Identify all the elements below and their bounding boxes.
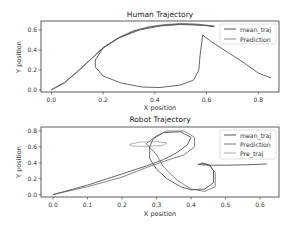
chart-title: Robot Trajectory	[129, 115, 191, 124]
y-tick-label: 0.6	[27, 26, 37, 33]
y-ticks: 0.00.20.40.6	[27, 26, 41, 93]
x-tick-label: 0.2	[117, 201, 127, 208]
x-tick-label: 0.3	[152, 201, 162, 208]
x-axis-label: X position	[144, 104, 176, 112]
legend: mean_traj Prediction Pre_traj	[220, 130, 276, 159]
series-prediction	[53, 131, 215, 195]
x-tick-label: 0.1	[83, 201, 93, 208]
x-ticks: 0.00.20.40.60.8	[47, 92, 264, 103]
legend-label-pre-traj: Pre_traj	[240, 150, 264, 158]
y-axis-label: Y position	[15, 41, 23, 74]
y-ticks: 0.00.20.40.60.8	[27, 127, 41, 198]
x-tick-label: 0.5	[221, 201, 231, 208]
x-axis-label: X position	[144, 210, 176, 218]
y-tick-label: 0.4	[27, 46, 37, 53]
legend-label-mean-traj: mean_traj	[240, 132, 271, 140]
x-tick-label: 0.6	[255, 201, 265, 208]
x-tick-label: 0.4	[186, 201, 196, 208]
y-tick-label: 0.8	[27, 127, 37, 134]
figure: Human Trajectory 0.00.20.40.60.8 0.00.20…	[0, 0, 297, 230]
legend: mean_traj Prediction	[220, 24, 276, 44]
x-tick-label: 0.4	[150, 96, 160, 103]
x-ticks: 0.00.10.20.30.40.50.6	[48, 197, 265, 208]
x-tick-label: 0.8	[254, 96, 264, 103]
chart-title: Human Trajectory	[127, 10, 194, 19]
y-tick-label: 0.2	[27, 66, 37, 73]
legend-label-prediction: Prediction	[240, 36, 271, 43]
human-trajectory-chart: Human Trajectory 0.00.20.40.60.8 0.00.20…	[15, 10, 279, 112]
robot-trajectory-chart: Robot Trajectory 0.00.10.20.30.40.50.6 0…	[15, 115, 279, 218]
x-tick-label: 0.0	[48, 201, 58, 208]
y-tick-label: 0.0	[27, 86, 37, 93]
y-tick-label: 0.6	[27, 143, 37, 150]
y-axis-label: Y position	[15, 146, 23, 179]
y-tick-label: 0.0	[27, 191, 37, 198]
y-tick-label: 0.4	[27, 159, 37, 166]
legend-label-prediction: Prediction	[240, 141, 271, 148]
x-tick-label: 0.0	[47, 96, 57, 103]
x-tick-label: 0.2	[98, 96, 108, 103]
x-tick-label: 0.6	[202, 96, 212, 103]
legend-label-mean-traj: mean_traj	[240, 26, 271, 34]
series-prediction	[51, 24, 214, 90]
y-tick-label: 0.2	[27, 175, 37, 182]
